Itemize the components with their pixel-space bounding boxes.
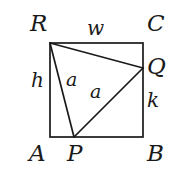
segment-R-Q — [50, 43, 143, 68]
geometry-figure: R C A B P Q w h k a a — [0, 0, 182, 183]
segment-Q-P — [74, 68, 143, 137]
segment-P-R — [50, 43, 74, 137]
vertex-label-C: C — [147, 12, 165, 35]
segment-length-label-k: k — [147, 90, 159, 110]
segment-length-label-a-right: a — [90, 82, 101, 101]
vertex-label-P: P — [67, 142, 82, 165]
segment-length-label-w: w — [87, 18, 104, 38]
vertex-label-Q: Q — [147, 55, 166, 78]
segment-length-label-a-left: a — [66, 70, 77, 89]
vertex-label-B: B — [147, 142, 164, 165]
vertex-label-R: R — [30, 12, 47, 35]
segment-length-label-h: h — [31, 70, 44, 90]
vertex-label-A: A — [29, 142, 46, 165]
